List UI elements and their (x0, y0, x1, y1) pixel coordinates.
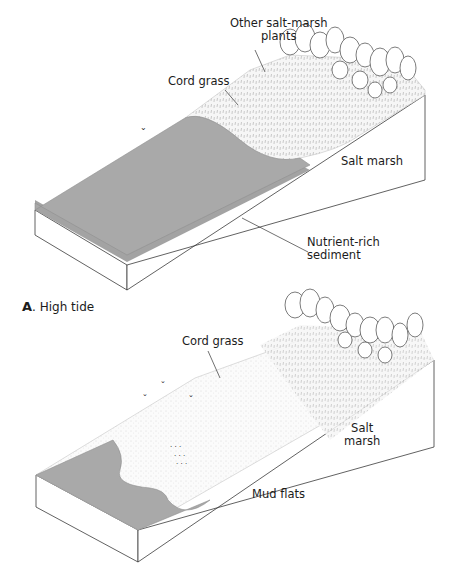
label-salt-marsh-b: Salt marsh (344, 422, 380, 448)
caption-letter: A (22, 299, 32, 314)
label-other-salt-marsh-plants: Other salt-marsh plants (230, 17, 327, 43)
bird-icon: · · · (170, 443, 181, 451)
bird-icon: ⌄ (142, 390, 148, 398)
bird-icon: ⌄ (140, 123, 147, 132)
bird-icon: ⌄ (188, 391, 194, 399)
label-mud-flats: Mud flats (252, 488, 305, 501)
label-marsh-line: marsh (344, 435, 380, 448)
label-other-plants-line2: plants (230, 30, 327, 43)
label-sediment-line2: sediment (307, 249, 380, 262)
caption-text: . High tide (32, 300, 94, 314)
bird-icon: · · · (176, 460, 187, 468)
label-nutrient-rich-sediment: Nutrient-rich sediment (307, 236, 380, 262)
label-cord-grass-a: Cord grass (168, 75, 230, 88)
bird-icon: · · · (174, 452, 185, 460)
label-cord-grass-b: Cord grass (182, 335, 244, 348)
caption-panel-a: A. High tide (22, 299, 94, 314)
label-salt-marsh-a: Salt marsh (341, 155, 403, 168)
bird-icon: ⌄ (160, 377, 166, 385)
